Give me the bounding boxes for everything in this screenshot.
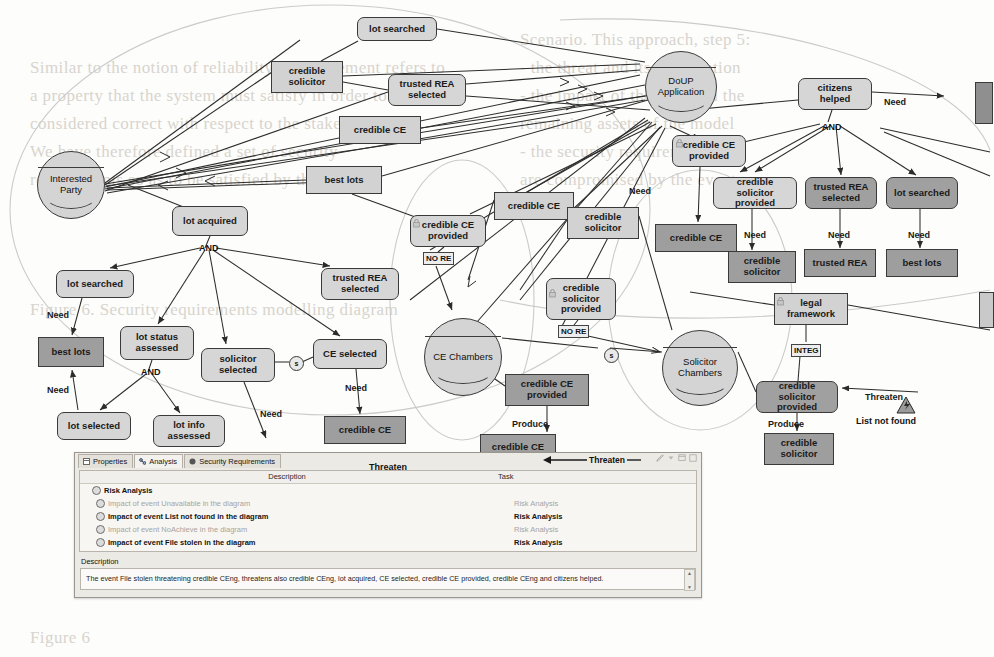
node-citizens-helped[interactable]: citizenshelped xyxy=(798,78,872,110)
node-credible-ce-provided-b[interactable]: credible CEprovided xyxy=(505,374,589,406)
table-row[interactable]: Impact of event NoAchieve in the diagram… xyxy=(80,523,696,536)
node-credible-ce-e[interactable]: credible CE xyxy=(655,224,737,252)
node-lot-status-assessed[interactable]: lot statusassessed xyxy=(120,326,194,360)
node-label: credible CEprovided xyxy=(521,379,573,400)
node-label: CE selected xyxy=(323,349,377,360)
actor-base xyxy=(652,97,709,112)
table-body[interactable]: Risk AnalysisImpact of event Unavailable… xyxy=(80,484,696,549)
description-label: Description xyxy=(81,557,119,566)
cell-description: Risk Analysis xyxy=(84,486,506,495)
node-lot-searched-c[interactable]: lot searched xyxy=(886,177,958,209)
node-label: legalframework xyxy=(787,298,835,319)
node-trusted-rea[interactable]: trusted REA xyxy=(804,249,876,277)
tab-label: Security Requirements xyxy=(199,457,275,466)
node-lot-info-assessed[interactable]: lot infoassessed xyxy=(153,415,225,447)
node-label: trusted REAselected xyxy=(814,182,869,203)
node-label: lot infoassessed xyxy=(168,420,211,441)
actor-doup-application[interactable]: DoUPApplication xyxy=(645,51,717,123)
node-label: crediblesolicitor xyxy=(585,212,622,233)
node-offscreen-right[interactable] xyxy=(975,82,993,124)
edge-label-need-1: Need xyxy=(47,310,69,320)
node-credible-ce-b[interactable]: credible CE xyxy=(324,416,406,444)
panel-window-tools[interactable] xyxy=(656,454,697,462)
edit-icon[interactable] xyxy=(656,454,664,462)
actor-lid xyxy=(38,167,104,168)
node-credible-solicitor-d[interactable]: crediblesolicitor xyxy=(764,433,834,465)
node-label: credible CEprovided xyxy=(683,140,735,161)
node-label: trusted REAselected xyxy=(333,273,388,294)
node-label: best lots xyxy=(51,347,90,358)
node-lot-searched-b[interactable]: lot searched xyxy=(56,270,134,298)
node-lot-acquired[interactable]: lot acquired xyxy=(172,206,248,236)
tab-properties[interactable]: Properties xyxy=(78,454,133,468)
table-row[interactable]: Impact of event Unavailable in the diagr… xyxy=(80,497,696,510)
edge-label-need-2: Need xyxy=(47,385,69,395)
node-credible-solicitor-provided-b[interactable]: credible solicitorprovided xyxy=(713,177,797,209)
constraint-tag-integ-1[interactable]: INTEG xyxy=(791,344,821,357)
node-credible-solicitor-c[interactable]: crediblesolicitor xyxy=(728,251,796,283)
actor-ce-chambers[interactable]: CE Chambers xyxy=(424,318,502,396)
node-label: lot selected xyxy=(68,421,120,432)
actor-lid xyxy=(646,67,716,68)
tab-security-requirements[interactable]: Security Requirements xyxy=(184,454,281,468)
description-textbox[interactable]: The event File stolen threatening credib… xyxy=(80,568,696,590)
menu-icon[interactable] xyxy=(667,454,675,462)
node-legal-framework[interactable]: legalframework xyxy=(774,293,848,325)
node-ce-selected[interactable]: CE selected xyxy=(313,339,387,369)
table-row[interactable]: Impact of event File stolen in the diagr… xyxy=(80,536,696,549)
properties-view-panel[interactable]: PropertiesAnalysisSecurity Requirements … xyxy=(74,452,702,598)
edge-label-need-8: Need xyxy=(908,230,930,240)
threat-warning-icon[interactable] xyxy=(896,396,916,414)
node-credible-ce-a[interactable]: credible CE xyxy=(339,116,421,144)
node-best-lots-c[interactable]: best lots xyxy=(886,249,958,277)
node-label: credible CE xyxy=(492,442,544,453)
node-best-lots-b[interactable]: best lots xyxy=(38,337,104,367)
analysis-table[interactable]: Description Task Risk AnalysisImpact of … xyxy=(79,470,697,552)
node-credible-ce-provided-a[interactable]: credible CEprovided xyxy=(410,215,486,247)
cell-description: Impact of event NoAchieve in the diagram xyxy=(80,525,510,534)
node-trusted-rea-selected-a[interactable]: trusted REAselected xyxy=(388,74,466,106)
node-label: lot acquired xyxy=(183,216,237,227)
threat-caption: List not found xyxy=(856,416,916,426)
node-trusted-rea-selected-c[interactable]: trusted REAselected xyxy=(805,177,877,209)
table-row[interactable]: Impact of event List not found in the di… xyxy=(80,510,696,523)
analysis-item-icon xyxy=(96,512,105,521)
cell-description: Impact of event List not found in the di… xyxy=(80,512,510,521)
node-credible-solicitor-b[interactable]: crediblesolicitor xyxy=(567,207,639,239)
edge-label-produce-2: Produce xyxy=(768,419,804,429)
cell-task: Risk Analysis xyxy=(510,512,696,521)
security-marker-sec-marker-1[interactable]: s xyxy=(289,356,304,371)
table-row[interactable]: Risk Analysis xyxy=(80,484,696,497)
constraint-tag-no-re-2[interactable]: NO RE xyxy=(558,325,589,338)
node-solicitor-selected[interactable]: solicitorselected xyxy=(201,348,275,382)
node-label: credible CE xyxy=(354,125,406,136)
constraint-tag-no-re-1[interactable]: NO RE xyxy=(423,252,454,265)
node-offscreen-right-2[interactable] xyxy=(979,292,994,328)
node-label: credible solicitorprovided xyxy=(717,177,793,209)
properties-icon xyxy=(83,458,90,465)
right-dash-icon xyxy=(627,456,641,464)
node-lot-searched-top[interactable]: lot searched xyxy=(357,17,437,41)
node-lot-selected[interactable]: lot selected xyxy=(57,412,131,440)
security-marker-sec-marker-2[interactable]: s xyxy=(604,348,619,363)
analysis-item-icon xyxy=(92,486,101,495)
node-credible-solicitor-provided-c[interactable]: credible solicitorprovided xyxy=(756,381,838,413)
description-scrollbar[interactable]: ▲▼ xyxy=(684,569,695,591)
node-best-lots-a[interactable]: best lots xyxy=(306,166,382,194)
node-trusted-rea-selected-b[interactable]: trusted REAselected xyxy=(321,268,399,300)
tab-analysis[interactable]: Analysis xyxy=(134,454,183,468)
actor-base xyxy=(670,380,731,395)
node-label: crediblesolicitor xyxy=(289,66,326,87)
actor-solicitor-chambers[interactable]: SolicitorChambers xyxy=(662,330,738,406)
tab-label: Properties xyxy=(93,457,127,466)
node-credible-ce-c[interactable]: credible CE xyxy=(494,192,574,220)
node-credible-ce-provided-c[interactable]: credible CEprovided xyxy=(672,135,746,167)
node-label: citizenshelped xyxy=(818,83,853,104)
node-credible-solicitor-provided-a[interactable]: crediblesolicitorprovided xyxy=(546,278,616,320)
node-label: lot searched xyxy=(369,24,425,35)
actor-interested-party[interactable]: InterestedParty xyxy=(37,151,105,219)
maximize-icon[interactable] xyxy=(689,454,697,462)
cell-task: Risk Analysis xyxy=(510,538,696,547)
minimize-icon[interactable] xyxy=(678,454,686,462)
node-credible-solicitor-a[interactable]: crediblesolicitor xyxy=(271,61,343,93)
